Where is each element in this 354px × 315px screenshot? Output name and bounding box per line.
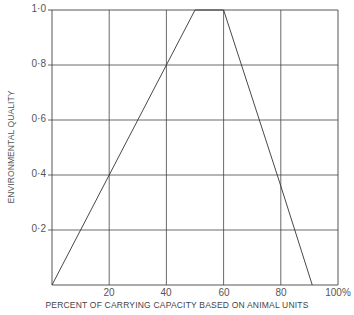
- x-tick-20: 20: [89, 287, 129, 298]
- x-axis-label: PERCENT OF CARRYING CAPACITY BASED ON AN…: [0, 300, 354, 310]
- x-tick-40: 40: [146, 287, 186, 298]
- data-line-0: [52, 10, 312, 285]
- x-tick-60: 60: [204, 287, 244, 298]
- y-axis-label: ENVIRONMENTAL QUALITY: [6, 82, 16, 212]
- chart-container: 1·0 0·8 0·6 0·4 0·2 20 40 60 80 100% ENV…: [0, 0, 354, 315]
- y-tick-0-2: 0·2: [10, 223, 46, 234]
- plot-area: [0, 0, 354, 315]
- y-tick-0-8: 0·8: [10, 58, 46, 69]
- x-tick-100: 100%: [318, 287, 354, 298]
- y-tick-1-0: 1·0: [10, 3, 46, 14]
- x-tick-80: 80: [261, 287, 301, 298]
